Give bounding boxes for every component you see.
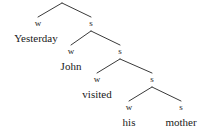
word-his: his: [123, 117, 136, 128]
branch-level3-apex-to-level3-weak: [129, 87, 152, 101]
word-john: John: [61, 61, 82, 72]
node-label-level3-weak: w: [126, 103, 133, 112]
word-visited: visited: [82, 89, 111, 100]
metrical-tree-figure: w s w s w s w s Yesterday John visited h…: [0, 0, 208, 140]
branch-level3-apex-to-level3-strong: [152, 87, 181, 101]
branch-level1-apex-to-level1-weak: [71, 31, 91, 45]
node-label-level0-weak: w: [35, 19, 42, 28]
word-yesterday: Yesterday: [14, 33, 58, 44]
branch-level0-apex-to-level0-strong: [62, 3, 91, 17]
branch-level2-apex-to-level2-strong: [120, 59, 152, 73]
node-label-level2-weak: w: [94, 75, 101, 84]
node-label-level0-strong: s: [89, 19, 93, 28]
branch-level1-apex-to-level1-strong: [91, 31, 120, 45]
word-mother: mother: [165, 117, 196, 128]
branch-level0-apex-to-level0-weak: [38, 3, 62, 17]
node-label-level2-strong: s: [150, 75, 154, 84]
branch-level2-apex-to-level2-weak: [97, 59, 120, 73]
node-label-level1-weak: w: [68, 47, 75, 56]
node-label-level1-strong: s: [118, 47, 122, 56]
node-label-level3-strong: s: [179, 103, 183, 112]
